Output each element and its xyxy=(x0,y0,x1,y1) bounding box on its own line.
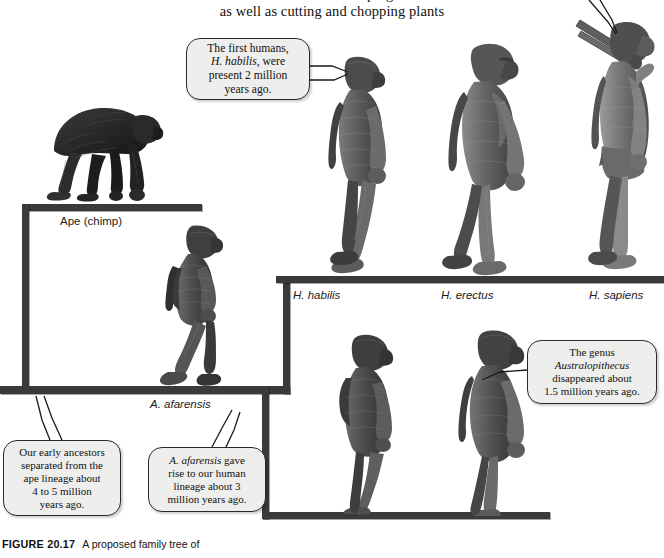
callout-afarensis-rise: A. afarensis gave rise to our human line… xyxy=(148,447,266,512)
label-ape-chimp: Ape (chimp) xyxy=(60,215,122,227)
callout-australopithecus-line-1: The genus xyxy=(536,346,648,359)
organism-habilis xyxy=(316,52,408,278)
organism-erectus xyxy=(442,34,548,278)
label-a-afarensis: A. afarensis xyxy=(150,398,211,410)
callout-first-humans-line-1: The first humans, xyxy=(195,42,301,56)
organism-chimp xyxy=(36,96,164,206)
callout-australopithecus-extinct: The genus Australopithecus disappeared a… xyxy=(527,340,657,404)
callout-first-humans-line-3: present 2 million xyxy=(195,69,301,83)
figure-caption-text: A proposed family tree of xyxy=(82,538,199,550)
leader-afarensis-rise-2 xyxy=(226,412,240,447)
body-text-line-2: as well as cutting and chopping plants xyxy=(0,3,664,20)
bracket-afarensis-vertical xyxy=(283,276,290,394)
organism-afarensis-2 xyxy=(324,330,422,514)
callout-first-humans: The first humans, H. habilis, were prese… xyxy=(186,38,310,100)
page-body-text: tools were used for scraping animal as w… xyxy=(0,0,664,20)
callout-first-humans-line-2: H. habilis, were xyxy=(195,55,301,69)
bracket-ape-vertical xyxy=(22,204,29,390)
organism-afarensis-1 xyxy=(140,222,250,390)
callout-early-ancestors-line-3: ape lineage about xyxy=(12,472,112,485)
callout-early-ancestors-line-2: separated from the xyxy=(12,459,112,472)
leader-early-ancestors-2 xyxy=(44,396,62,440)
callout-australopithecus-line-4: 1.5 million years ago. xyxy=(536,385,648,398)
callout-australopithecus-line-3: disappeared about xyxy=(536,372,648,385)
callout-afarensis-rise-line-3: lineage about 3 xyxy=(157,480,257,493)
callout-australopithecus-line-2: Australopithecus xyxy=(536,359,648,372)
label-h-sapiens: H. sapiens xyxy=(589,289,643,301)
taxon-h-habilis: H. habilis xyxy=(211,55,257,68)
callout-early-ancestors-line-1: Our early ancestors xyxy=(12,446,112,459)
callout-afarensis-rise-line-4: million years ago. xyxy=(157,493,257,506)
callout-afarensis-rise-line-1: A. afarensis gave xyxy=(157,454,257,467)
organism-sapiens xyxy=(586,6,664,278)
callout-early-ancestors: Our early ancestors separated from the a… xyxy=(3,440,121,516)
callout-early-ancestors-line-4: 4 to 5 million xyxy=(12,485,112,498)
leader-early-ancestors xyxy=(36,396,50,440)
leader-afarensis-rise xyxy=(212,410,232,447)
callout-afarensis-rise-line-2: rise to our human xyxy=(157,467,257,480)
label-h-erectus: H. erectus xyxy=(441,289,493,301)
label-h-habilis: H. habilis xyxy=(293,289,340,301)
figure-number: FIGURE 20.17 xyxy=(2,538,75,550)
taxon-australopithecus: Australopithecus xyxy=(555,359,630,371)
taxon-a-afarensis: A. afarensis xyxy=(169,454,221,466)
figure-caption: FIGURE 20.17A proposed family tree of xyxy=(2,538,422,550)
callout-first-humans-line-4: years ago. xyxy=(195,83,301,97)
callout-early-ancestors-line-5: years ago. xyxy=(12,498,112,511)
